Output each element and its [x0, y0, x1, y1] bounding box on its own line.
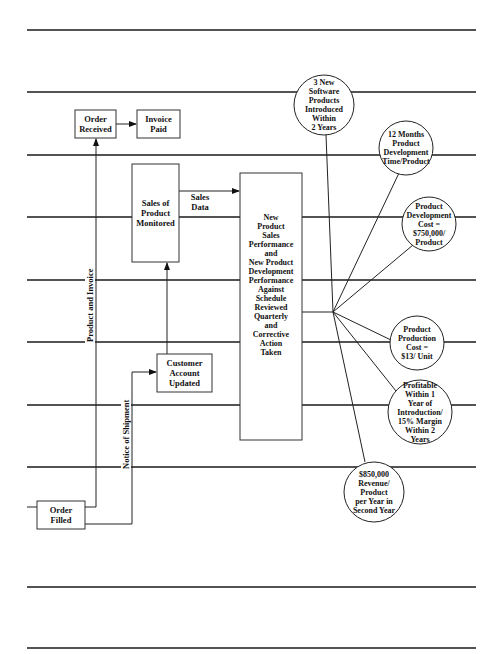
invoice-paid-box: Invoice Paid — [137, 110, 180, 138]
sales-monitored-box: Sales of Product Monitored — [132, 164, 179, 262]
goal-prod-cost: Product Production Cost = $13/ Unit — [390, 316, 444, 370]
sales-data-label: Sales Data — [185, 191, 215, 213]
order-received-box: Order Received — [75, 110, 116, 138]
goal-new-products: 3 New Software Products Introduced Withi… — [294, 75, 354, 135]
performance-review-box: New Product Sales Performance and New Pr… — [240, 173, 302, 440]
goal-dev-time: 12 Months Product Development Time/Produ… — [379, 121, 433, 175]
goal-dev-cost: Product Development Cost = $750,000/ Pro… — [402, 197, 456, 251]
customer-account-box: Customer Account Updated — [157, 354, 212, 392]
product-and-invoice-label: Product and Invoice — [85, 267, 95, 343]
order-filled-box: Order Filled — [37, 501, 85, 529]
notice-of-shipment-label: Notice of Shipment — [121, 399, 131, 470]
goal-profitable: Profitable Within 1 Year of Introduction… — [388, 380, 452, 444]
goal-revenue: $850,000 Revenue/ Product per Year in Se… — [344, 462, 404, 522]
